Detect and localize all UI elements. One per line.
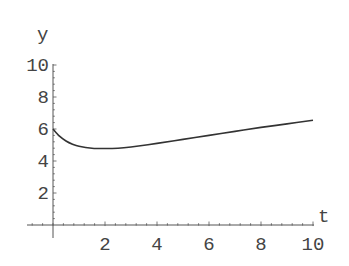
axes [27, 64, 314, 238]
x-axis-label: t [318, 206, 329, 228]
y-tick-label: 8 [38, 87, 49, 109]
x-tick-label: 6 [203, 234, 214, 256]
y-tick-label: 6 [38, 119, 49, 141]
y-tick-label: 2 [38, 183, 49, 205]
x-tick-label: 10 [302, 234, 325, 256]
x-tick-label: 8 [255, 234, 266, 256]
y-tick-label: 4 [38, 151, 49, 173]
y-tick-label: 10 [26, 55, 49, 77]
line-chart: 246810246810 t y [0, 0, 349, 266]
tick-labels: 246810246810 [26, 55, 324, 256]
y-axis-label: y [37, 24, 48, 46]
x-tick-label: 2 [99, 234, 110, 256]
data-curve [53, 120, 313, 148]
x-tick-label: 4 [151, 234, 162, 256]
